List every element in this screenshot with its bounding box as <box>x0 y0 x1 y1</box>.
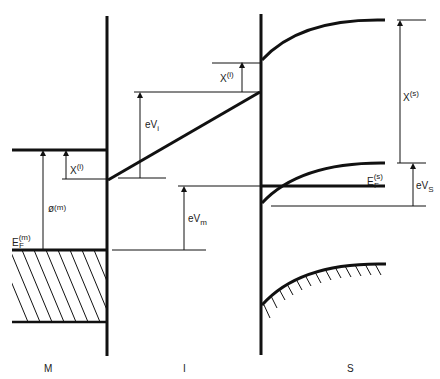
semiconductor-valence-band <box>262 264 386 305</box>
eVi-label: eVi <box>145 119 159 133</box>
region-insulator-label: I <box>183 363 186 374</box>
region-metal-label: M <box>44 363 52 374</box>
chi-s-label: X(s) <box>403 89 419 103</box>
region-semiconductor-label: S <box>347 363 354 374</box>
chi-i-right-label: X(i) <box>220 70 234 84</box>
phi-m-label: ø(m) <box>48 203 66 214</box>
mis-band-diagram: X(i) ø(m) E(m) F eVi X(i) eVm X(s) E(s) … <box>0 0 440 379</box>
ef-s-sub: F <box>374 181 379 190</box>
chi-i-left-label: X(i) <box>70 162 84 176</box>
insulator-conduction-band <box>108 92 260 180</box>
ef-m-sub: F <box>19 241 24 250</box>
eVs-label: eVS <box>416 180 434 194</box>
semiconductor-vacuum-level <box>262 20 385 60</box>
metal-hatching <box>0 250 124 322</box>
valence-hatching <box>264 264 381 318</box>
eVm-label: eVm <box>188 213 207 227</box>
